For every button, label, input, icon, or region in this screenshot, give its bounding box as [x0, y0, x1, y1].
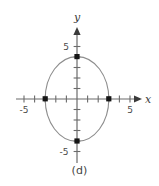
point-vertex-left: [43, 96, 48, 101]
x-axis-arrow-icon: [134, 95, 142, 102]
y-axis-arrow-icon: [73, 27, 80, 35]
y-axis-label: y: [73, 11, 81, 24]
point-vertex-top: [74, 54, 79, 59]
y-tick-label-negative-5: -5: [60, 147, 69, 157]
y-tick-label-positive-5: 5: [63, 42, 69, 52]
point-vertex-bottom: [74, 138, 79, 143]
x-tick-label-positive-5: 5: [127, 105, 133, 115]
coordinate-plane: x y -5 5 5 -5: [0, 0, 159, 186]
figure-container: x y -5 5 5 -5 (d): [0, 0, 159, 186]
x-axis-label: x: [145, 93, 152, 106]
x-tick-label-negative-5: -5: [20, 105, 29, 115]
point-vertex-right: [106, 96, 111, 101]
figure-caption: (d): [0, 164, 159, 177]
